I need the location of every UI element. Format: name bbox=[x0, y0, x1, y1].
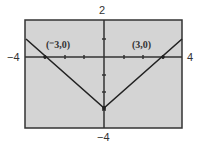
annotation-right-zero: (3,0) bbox=[132, 40, 151, 50]
graph-window bbox=[0, 0, 201, 148]
annotation-left-zero: (⁻3,0) bbox=[46, 40, 70, 50]
point-right-zero bbox=[161, 55, 165, 59]
point-vertex bbox=[102, 106, 106, 110]
ymax-label: 2 bbox=[99, 5, 105, 16]
xmin-label: −4 bbox=[7, 52, 20, 63]
xmax-label: 4 bbox=[187, 52, 193, 63]
ymin-label: −4 bbox=[97, 132, 110, 143]
point-left-zero bbox=[43, 55, 47, 59]
